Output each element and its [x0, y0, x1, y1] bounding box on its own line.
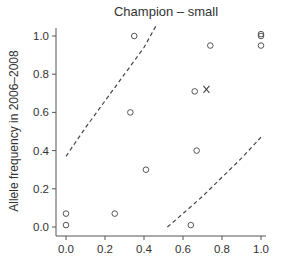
x-tick-label: 0.0 — [58, 243, 74, 255]
lower-bound-line — [167, 137, 261, 227]
x-tick-label: 0.4 — [136, 243, 153, 255]
y-axis: 0.00.20.40.60.81.0 — [33, 28, 56, 236]
circle-marker — [128, 110, 134, 116]
x-axis: 0.00.20.40.60.81.0 — [56, 236, 269, 255]
circle-marker — [131, 33, 137, 39]
y-tick-label: 0.6 — [33, 106, 49, 118]
y-tick-label: 1.0 — [33, 30, 49, 42]
circle-marker — [194, 148, 200, 154]
x-tick-label: 0.6 — [175, 243, 191, 255]
circle-marker — [63, 222, 69, 228]
chart-title: Champion – small — [114, 4, 218, 19]
circle-marker — [112, 211, 118, 217]
y-tick-label: 0.4 — [33, 145, 50, 157]
x-tick-label: 0.2 — [97, 243, 113, 255]
circle-marker — [208, 43, 214, 49]
x-tick-label: 1.0 — [253, 243, 269, 255]
y-tick-label: 0.0 — [33, 221, 49, 233]
confidence-bounds — [66, 26, 261, 227]
x-marker — [203, 86, 209, 93]
circle-marker — [192, 89, 198, 95]
x-tick-label: 0.8 — [214, 243, 230, 255]
circle-marker — [143, 167, 149, 173]
scatter-chart: Champion – small Allele frequency in 200… — [0, 0, 287, 275]
upper-bound-line — [66, 26, 156, 156]
y-axis-label: Allele frequency in 2006–2008 — [7, 50, 21, 212]
circle-marker — [258, 43, 264, 49]
y-tick-label: 0.2 — [33, 183, 49, 195]
circle-marker — [63, 211, 69, 217]
data-points — [63, 31, 264, 228]
y-tick-label: 0.8 — [33, 68, 49, 80]
circle-marker — [188, 222, 194, 228]
